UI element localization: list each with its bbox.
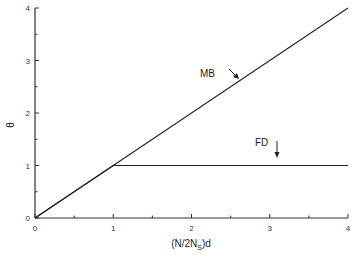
series-fd-line — [35, 166, 348, 219]
y-tick-label: 4 — [26, 4, 31, 13]
chart: 01234 01234 MB FD θ (N/2NS)d — [0, 0, 355, 262]
annotation-fd-label: FD — [255, 137, 268, 148]
arrow-down-right-icon — [229, 69, 239, 79]
x-tick-label: 2 — [189, 224, 194, 233]
y-tick-label: 3 — [26, 57, 31, 66]
x-tick-label: 4 — [346, 224, 351, 233]
x-tick-label: 1 — [111, 224, 116, 233]
y-tick-label: 1 — [26, 162, 31, 171]
y-tick-label: 0 — [26, 214, 31, 223]
x-axis-title: (N/2NS)d — [171, 238, 211, 251]
x-tick-label: 3 — [268, 224, 273, 233]
x-tick-label: 0 — [33, 224, 38, 233]
annotation-mb-label: MB — [200, 68, 215, 79]
y-tick-label: 2 — [26, 109, 31, 118]
y-axis-title: θ — [5, 122, 16, 128]
x-ticks: 01234 — [33, 214, 351, 233]
arrow-down-icon — [275, 141, 280, 158]
y-ticks: 01234 — [26, 4, 39, 223]
